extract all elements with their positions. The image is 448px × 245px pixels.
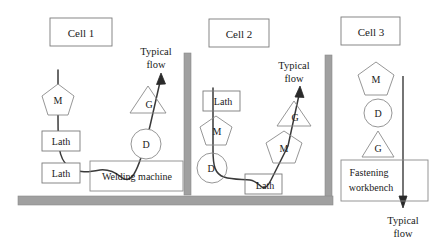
cell-1-group: Cell 1 Typical flow M Lath Lath Welding …: [42, 18, 183, 191]
cell-1-drill-label: D: [142, 139, 149, 150]
cell-2-mill-1-label: M: [213, 126, 222, 137]
cell-2-grinder-label: G: [291, 112, 298, 123]
cell-3-fastening-workbench-label-line2: workbench: [349, 182, 393, 193]
floor-wall: [18, 196, 333, 205]
cell-2-lath-2-label: Lath: [256, 180, 274, 191]
cell-2-flow-label-line2: flow: [284, 73, 304, 84]
cell-2-flow-arrowhead: [295, 86, 304, 98]
cell-2-lath-1-label: Lath: [214, 96, 232, 107]
cell-1-mill-label: M: [54, 95, 63, 106]
cell-3-grinder-label: G: [374, 143, 381, 154]
partition-wall-2: [325, 55, 332, 200]
cell-1-lath-2-label: Lath: [52, 168, 70, 179]
cell-2-mill-2-label: M: [280, 143, 289, 154]
cell-3-flow-label-line2: flow: [393, 228, 413, 239]
cell-2-group: Cell 2 Typical flow Lath M D Lath M G: [197, 19, 311, 194]
cell-3-title: Cell 3: [358, 26, 385, 38]
cell-1-title: Cell 1: [68, 27, 95, 39]
cell-1-lath-1-label: Lath: [52, 136, 70, 147]
cell-1-flow-label-line2: flow: [146, 59, 166, 70]
cell-2-drill-label: D: [207, 163, 214, 174]
partition-wall-1: [184, 53, 191, 195]
cell-3-flow-label-line1: Typical: [387, 215, 418, 226]
cell-3-group: Cell 3 Typical flow M D G Fastening work…: [341, 17, 428, 239]
cell-1-flow-label-line1: Typical: [140, 46, 171, 57]
cell-3-fastening-workbench-label-line1: Fastening: [350, 167, 389, 178]
cell-1-grinder-label: G: [145, 99, 152, 110]
cell-3-drill-label: D: [374, 108, 381, 119]
cell-3-mill-label: M: [372, 74, 381, 85]
cell-layout-diagram: Cell 1 Typical flow M Lath Lath Welding …: [0, 0, 448, 245]
cell-1-flow-arrowhead: [157, 73, 166, 85]
cell-1-welding-machine-label: Welding machine: [102, 171, 173, 182]
cell-2-flow-label-line1: Typical: [278, 60, 309, 71]
cell-2-title: Cell 2: [226, 28, 253, 40]
